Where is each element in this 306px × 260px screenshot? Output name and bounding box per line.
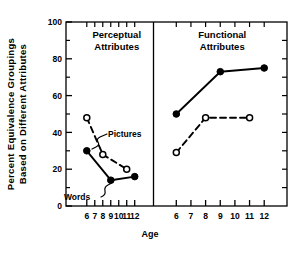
x-tick-label: 7: [92, 211, 97, 221]
data-point-words: [108, 177, 115, 184]
data-point-words: [217, 68, 224, 75]
annotation-label-words: Words: [64, 192, 91, 202]
annotations: PicturesWords: [64, 129, 142, 202]
x-tick-label: 9: [108, 211, 113, 221]
data-point-pictures: [124, 166, 130, 172]
chart-figure: 020406080100Percent Equivalence Grouping…: [0, 0, 306, 260]
x-tick-label: 9: [218, 211, 223, 221]
data-point-pictures: [203, 115, 209, 121]
x-tick-label: 6: [174, 211, 179, 221]
data-point-words: [131, 173, 138, 180]
data-point-words: [173, 111, 180, 118]
series-line-pictures: [176, 118, 249, 153]
annotation-label-pictures: Pictures: [108, 129, 142, 139]
x-tick-label: 7: [189, 211, 194, 221]
data-point-pictures: [84, 115, 90, 121]
y-tick-label: 80: [53, 54, 63, 64]
y-tick-label: 60: [53, 91, 63, 101]
y-axis-title: Percent Equivalence GroupingsBased on Di…: [5, 38, 28, 190]
x-tick-label: 11: [245, 211, 254, 221]
y-axis-right: [282, 40, 287, 187]
y-tick-label: 100: [48, 17, 62, 27]
series-line-pictures: [87, 118, 127, 170]
x-tick-label: 12: [130, 211, 140, 221]
panel-title-line: Perceptual: [92, 29, 141, 40]
panel-title-line: Attributes: [94, 41, 139, 52]
y-tick-label: 20: [53, 164, 63, 174]
x-tick-label: 8: [203, 211, 208, 221]
annotation-leader-words: [101, 181, 113, 197]
y-axis-title-line: Based on Different Attributes: [17, 44, 28, 184]
panel-perceptual: PerceptualAttributes6789101112PicturesWo…: [64, 22, 142, 221]
two-panel-line-chart: 020406080100Percent Equivalence Grouping…: [0, 0, 306, 260]
x-tick-label: 8: [100, 211, 105, 221]
data-point-words: [84, 148, 91, 155]
panel-title-line: Functional: [198, 29, 246, 40]
y-tick-label: 0: [57, 201, 62, 211]
x-axis-title: Age: [141, 229, 158, 239]
x-tick-label: 10: [230, 211, 240, 221]
y-axis-title-line: Percent Equivalence Groupings: [5, 38, 16, 190]
data-point-pictures: [247, 115, 253, 121]
x-tick-label: 6: [84, 211, 89, 221]
x-tick-label: 12: [259, 211, 269, 221]
data-point-words: [261, 65, 268, 72]
series-line-words: [87, 151, 135, 180]
y-tick-label: 40: [53, 128, 63, 138]
data-point-pictures: [173, 150, 179, 156]
data-point-pictures: [100, 152, 106, 158]
y-axis: 020406080100: [48, 17, 72, 211]
panel-functional: FunctionalAttributes6789101112: [173, 22, 269, 221]
panel-title-line: Attributes: [200, 41, 245, 52]
